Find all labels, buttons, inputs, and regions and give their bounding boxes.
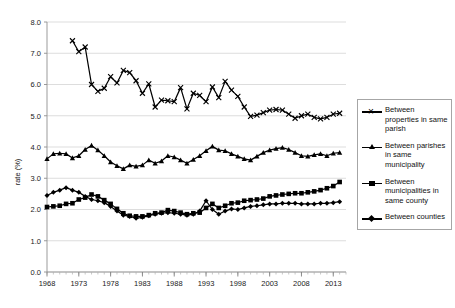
data-point-marker [204,99,209,104]
data-point-marker [57,203,62,208]
y-axis-tick-label: 1.0 [31,237,41,246]
data-point-marker [95,198,100,203]
x-axis-tick-label: 2013 [325,279,342,288]
series-counties [45,185,343,221]
x-axis-tick-label: 2008 [293,279,310,288]
data-point-marker [96,194,101,199]
data-point-marker [89,192,94,197]
data-point-marker [64,202,69,207]
data-point-marker [242,198,247,203]
data-point-marker [248,204,253,209]
data-point-marker [267,194,272,199]
data-point-marker [223,79,228,84]
legend-item-properties-same-parish: × Between properties in same parish [362,105,448,134]
diamond-marker-icon [362,213,382,224]
data-point-marker [236,200,241,205]
data-point-marker [337,180,342,185]
y-axis-tick-label: 4.0 [31,143,41,152]
y-axis-tick-label: 7.0 [31,49,41,58]
data-point-marker [325,186,330,191]
chart-legend: × Between properties in same parish Betw… [357,99,452,230]
data-point-marker [95,89,100,94]
data-point-marker [312,201,317,206]
data-point-marker [318,188,323,193]
data-point-marker [254,154,259,159]
x-axis-tick-label: 1998 [230,279,247,288]
y-axis-tick-label: 8.0 [31,18,41,27]
chart-figure: 0.01.02.03.04.05.06.07.08.01968197319781… [0,0,455,308]
data-point-marker [254,203,259,208]
data-point-marker [229,206,234,211]
x-axis-tick-label: 2003 [261,279,278,288]
data-point-marker [324,201,329,206]
data-point-marker [305,201,310,206]
data-point-marker [248,198,253,203]
data-point-marker [45,205,50,210]
data-point-marker [261,110,266,115]
data-point-marker [89,197,94,202]
y-axis-tick-label: 3.0 [31,174,41,183]
data-point-marker [235,207,240,212]
y-axis-title: rate (%) [13,158,22,185]
data-point-marker [293,191,298,196]
data-point-marker [223,203,228,208]
data-point-marker [70,38,75,43]
data-point-marker [274,201,279,206]
data-point-marker [134,78,139,83]
data-point-marker [216,95,221,100]
data-point-marker [255,197,260,202]
data-point-marker [331,200,336,205]
x-axis-tick-label: 1973 [70,279,87,288]
cross-marker-icon: × [362,106,382,117]
data-point-marker [216,206,221,211]
series-properties-same-parish [70,38,342,121]
data-point-marker [331,184,336,189]
data-point-marker [210,202,215,207]
data-point-marker [242,105,247,110]
data-point-marker [274,193,279,198]
data-point-marker [146,158,151,163]
data-point-marker [293,116,298,121]
data-point-marker [70,188,75,193]
data-point-marker [102,86,107,91]
data-point-marker [299,191,304,196]
y-axis-tick-label: 0.0 [31,268,41,277]
data-point-marker [51,204,56,209]
data-point-marker [140,91,145,96]
square-marker-icon [362,178,382,189]
data-point-marker [229,88,234,93]
data-point-marker [261,202,266,207]
x-axis-tick-label: 1993 [198,279,215,288]
data-point-marker [77,197,82,202]
data-point-marker [64,185,69,190]
data-point-marker [210,144,215,149]
data-point-marker [70,201,75,206]
triangle-marker-icon [362,142,382,153]
data-point-marker [337,199,342,204]
data-point-marker [280,201,285,206]
x-axis-tick-label: 1968 [39,279,56,288]
data-point-marker [204,206,209,211]
legend-item-label: Between counties [385,212,445,222]
data-point-marker [318,201,323,206]
data-point-marker [51,190,56,195]
data-point-marker [299,201,304,206]
data-point-marker [235,94,240,99]
data-point-marker [108,74,113,79]
data-point-marker [280,192,285,197]
legend-item-label: Between municipalities in same county [385,177,448,206]
y-axis-tick-label: 5.0 [31,112,41,121]
data-point-marker [312,189,317,194]
data-point-marker [114,163,119,168]
data-point-marker [261,196,266,201]
legend-item-counties: Between counties [362,212,448,224]
data-point-marker [184,161,189,166]
x-axis-tick-label: 1983 [134,279,151,288]
series-line [72,41,339,119]
data-point-marker [89,143,94,148]
legend-item-parishes-same-municipality: Between parishes in same municipality [362,141,448,170]
data-point-marker [57,188,62,193]
legend-item-label: Between properties in same parish [385,105,448,134]
x-axis-tick-label: 1978 [102,279,119,288]
data-point-marker [286,192,291,197]
